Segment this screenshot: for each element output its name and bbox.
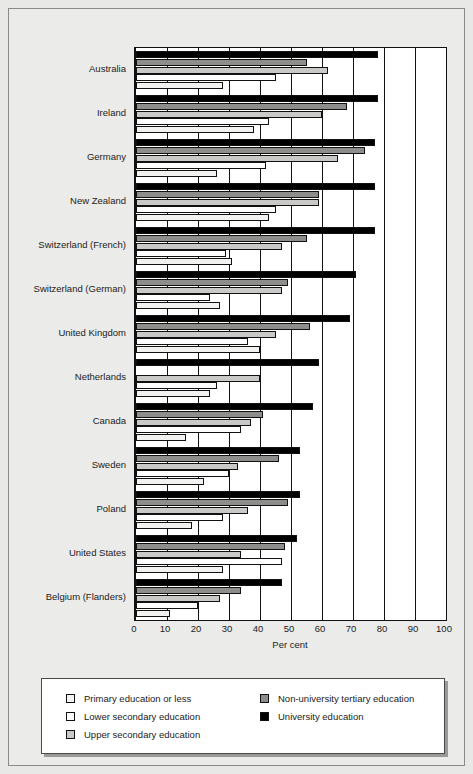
legend-label: Primary education or less: [84, 693, 191, 704]
bar: [136, 302, 220, 309]
bar: [136, 514, 223, 521]
bar: [136, 111, 322, 118]
bar: [136, 118, 269, 125]
category-label: Belgium (Flanders): [46, 591, 126, 602]
bar: [136, 535, 297, 542]
bar-group: [136, 136, 446, 180]
bar: [136, 470, 229, 477]
bar-group: [136, 268, 446, 312]
category-label: Canada: [93, 415, 126, 426]
legend-column-left: Primary education or lessLower secondary…: [66, 690, 200, 744]
legend-item: Non-university tertiary education: [260, 690, 414, 707]
legend-item: Upper secondary education: [66, 726, 200, 743]
bar: [136, 434, 186, 441]
bar: [136, 243, 282, 250]
bar-group: [136, 180, 446, 224]
bar-group: [136, 312, 446, 356]
bar: [136, 103, 347, 110]
category-label: United Kingdom: [58, 327, 126, 338]
bar: [136, 499, 288, 506]
bar: [136, 323, 310, 330]
x-tick-label: 90: [408, 623, 419, 634]
bar: [136, 375, 260, 382]
legend-label: Lower secondary education: [84, 711, 200, 722]
x-tick-label: 30: [222, 623, 233, 634]
x-tick-label: 10: [160, 623, 171, 634]
legend-column-right: Non-university tertiary educationUnivers…: [260, 690, 414, 726]
bar: [136, 507, 248, 514]
category-label: New Zealand: [70, 195, 126, 206]
bar-group: [136, 224, 446, 268]
bar: [136, 59, 307, 66]
bar: [136, 227, 375, 234]
bar: [136, 455, 279, 462]
bar: [136, 214, 269, 221]
bar: [136, 82, 223, 89]
category-axis-labels: AustraliaIrelandGermanyNew ZealandSwitze…: [19, 47, 126, 619]
bar: [136, 426, 241, 433]
bar: [136, 522, 192, 529]
bar: [136, 51, 378, 58]
bar: [136, 359, 319, 366]
bar-group: [136, 400, 446, 444]
legend-swatch-icon: [66, 712, 75, 721]
bar: [136, 183, 375, 190]
legend-swatch-icon: [260, 712, 269, 721]
legend-item: Primary education or less: [66, 690, 200, 707]
category-label: Australia: [89, 63, 126, 74]
bar: [136, 331, 276, 338]
bar: [136, 543, 285, 550]
legend-swatch-icon: [66, 694, 75, 703]
bar: [136, 147, 365, 154]
bar: [136, 595, 220, 602]
bar: [136, 258, 232, 265]
x-tick-label: 80: [377, 623, 388, 634]
bar: [136, 390, 210, 397]
bar: [136, 346, 260, 353]
bar-group: [136, 48, 446, 92]
x-tick-label: 20: [191, 623, 202, 634]
bar-group: [136, 92, 446, 136]
bar: [136, 491, 300, 498]
bar: [136, 315, 350, 322]
category-label: Netherlands: [75, 371, 126, 382]
figure-frame: AustraliaIrelandGermanyNew ZealandSwitze…: [8, 8, 465, 766]
bar: [136, 294, 210, 301]
bar: [136, 139, 375, 146]
x-tick-label: 50: [284, 623, 295, 634]
bar: [136, 67, 328, 74]
chart-legend: Primary education or lessLower secondary…: [41, 678, 445, 754]
legend-swatch-icon: [260, 694, 269, 703]
chart-area: AustraliaIrelandGermanyNew ZealandSwitze…: [19, 19, 472, 649]
legend-swatch-icon: [66, 730, 75, 739]
category-label: Sweden: [92, 459, 126, 470]
bar: [136, 170, 217, 177]
bar: [136, 447, 300, 454]
bar: [136, 602, 198, 609]
bar: [136, 411, 263, 418]
bar-group: [136, 356, 446, 400]
bar: [136, 155, 338, 162]
x-tick-label: 70: [346, 623, 357, 634]
legend-label: University education: [278, 711, 364, 722]
bar: [136, 95, 378, 102]
bar: [136, 419, 251, 426]
bar: [136, 126, 254, 133]
legend-item: Lower secondary education: [66, 708, 200, 725]
bar: [136, 74, 276, 81]
bar: [136, 463, 238, 470]
bar: [136, 250, 226, 257]
bar: [136, 610, 170, 617]
bar-group: [136, 488, 446, 532]
bar: [136, 551, 241, 558]
x-tick-label: 60: [315, 623, 326, 634]
bar: [136, 338, 248, 345]
bar: [136, 279, 288, 286]
bar-group: [136, 576, 446, 620]
legend-item: University education: [260, 708, 414, 725]
bar: [136, 403, 313, 410]
category-label: Switzerland (French): [38, 239, 126, 250]
bar: [136, 558, 282, 565]
bar: [136, 587, 241, 594]
plot-area: [134, 47, 447, 621]
